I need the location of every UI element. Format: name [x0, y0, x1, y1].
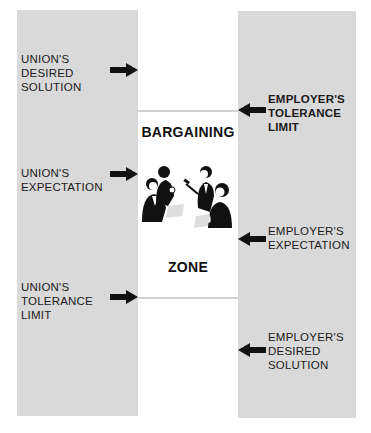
arrow-right-icon [110, 167, 138, 181]
zone-upper-boundary [138, 110, 238, 112]
bargaining-zone-title-bottom: ZONE [138, 259, 238, 275]
arrow-left-icon [238, 343, 266, 357]
zone-lower-boundary [138, 297, 238, 299]
person-icon [183, 166, 214, 212]
arrow-left-icon [238, 232, 266, 246]
negotiators-meeting-illustration [140, 162, 236, 232]
arrow-left-icon [238, 103, 266, 117]
employer-tolerance-limit-label: EMPLOYER'S TOLERANCE LIMIT [268, 92, 345, 134]
employer-desired-solution-label: EMPLOYER'S DESIRED SOLUTION [268, 330, 344, 372]
person-icon [156, 166, 175, 206]
employer-expectation-label: EMPLOYER'S EXPECTATION [268, 224, 350, 252]
union-desired-solution-label: UNION'S DESIRED SOLUTION [21, 52, 81, 94]
arrow-right-icon [110, 63, 138, 77]
union-expectation-label: UNION'S EXPECTATION [21, 166, 103, 194]
arrow-right-icon [110, 290, 138, 304]
union-tolerance-limit-label: UNION'S TOLERANCE LIMIT [21, 280, 93, 322]
bargaining-zone-title-top: BARGAINING [138, 124, 238, 140]
